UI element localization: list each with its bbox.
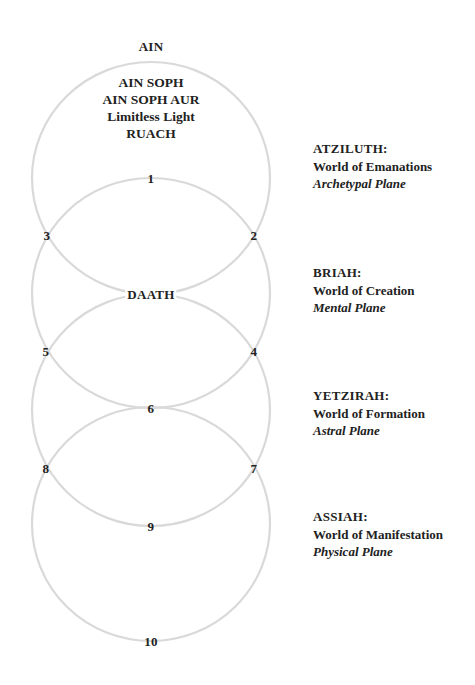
world-name: ASSIAH: xyxy=(313,508,443,526)
sephira-3: 3 xyxy=(44,229,51,242)
sephira-7: 7 xyxy=(251,462,258,475)
world-plane: Physical Plane xyxy=(313,543,443,561)
ain-soph-block: AIN SOPH AIN SOPH AUR Limitless Light RU… xyxy=(103,74,200,142)
world-description: World of Emanations xyxy=(313,158,432,176)
sephira-4: 4 xyxy=(251,345,258,358)
sephira-5: 5 xyxy=(43,345,50,358)
sephira-10: 10 xyxy=(144,635,158,648)
world-name: BRIAH: xyxy=(313,264,415,282)
sephira-9: 9 xyxy=(148,520,155,533)
world-briah: BRIAH: World of Creation Mental Plane xyxy=(313,264,415,317)
ruach-label: RUACH xyxy=(103,125,200,142)
ain-soph-label: AIN SOPH xyxy=(103,74,200,91)
sephira-8: 8 xyxy=(43,462,50,475)
world-plane: Mental Plane xyxy=(313,299,415,317)
sephira-2: 2 xyxy=(251,229,258,242)
limitless-light-label: Limitless Light xyxy=(103,108,200,125)
world-yetzirah: YETZIRAH: World of Formation Astral Plan… xyxy=(313,387,425,440)
world-name: ATZILUTH: xyxy=(313,140,432,158)
world-plane: Archetypal Plane xyxy=(313,175,432,193)
world-description: World of Formation xyxy=(313,405,425,423)
four-worlds-rings xyxy=(0,0,475,685)
world-name: YETZIRAH: xyxy=(313,387,425,405)
ain-soph-aur-label: AIN SOPH AUR xyxy=(103,91,200,108)
world-description: World of Creation xyxy=(313,282,415,300)
world-atziluth: ATZILUTH: World of Emanations Archetypal… xyxy=(313,140,432,193)
sephira-daath: DAATH xyxy=(125,288,176,301)
world-assiah: ASSIAH: World of Manifestation Physical … xyxy=(313,508,443,561)
sephira-6: 6 xyxy=(148,402,155,415)
world-plane: Astral Plane xyxy=(313,422,425,440)
ain-label: AIN xyxy=(139,40,164,53)
world-description: World of Manifestation xyxy=(313,526,443,544)
sephira-1: 1 xyxy=(148,172,155,185)
